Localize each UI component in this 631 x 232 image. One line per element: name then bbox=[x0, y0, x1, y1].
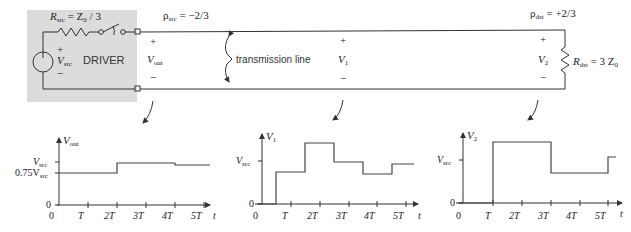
v1-minus: − bbox=[340, 72, 346, 84]
v1-waveform bbox=[257, 143, 414, 204]
vout-label: Vout bbox=[147, 53, 163, 67]
svg-text:0: 0 bbox=[456, 210, 461, 221]
svg-text:2T: 2T bbox=[307, 210, 319, 221]
plot-v2: V2 Vsrc 0 0 T 2T 3T 4T 5T t bbox=[437, 129, 623, 221]
plot-vout-t-label: t bbox=[213, 210, 216, 221]
vsrc-minus: − bbox=[57, 67, 63, 79]
svg-text:0: 0 bbox=[253, 210, 258, 221]
rho-src-label: ρsrc = −2/3 bbox=[163, 9, 209, 23]
rho-dst-label: ρdst = +2/3 bbox=[530, 7, 576, 21]
svg-text:3T: 3T bbox=[537, 210, 550, 221]
arrow-to-vout-plot bbox=[143, 101, 153, 123]
v2-minus: − bbox=[540, 71, 546, 83]
arrow-to-v2-plot bbox=[528, 100, 538, 120]
svg-text:T: T bbox=[485, 210, 492, 221]
svg-text:Vsrc: Vsrc bbox=[236, 155, 250, 168]
svg-text:5T: 5T bbox=[191, 210, 203, 221]
transmission-line-diagram: Rsrc = Z0 / 3 + Vsrc − DRIVER ρsrc = −2/… bbox=[0, 0, 631, 232]
arrow-to-v1-plot bbox=[333, 100, 343, 120]
svg-text:t: t bbox=[418, 210, 421, 221]
svg-text:V2: V2 bbox=[467, 129, 478, 143]
svg-text:0: 0 bbox=[49, 210, 54, 221]
vout-waveform bbox=[59, 163, 210, 173]
svg-text:Vout: Vout bbox=[63, 134, 79, 148]
svg-text:0: 0 bbox=[249, 198, 254, 209]
v1-plus: + bbox=[340, 34, 346, 46]
svg-text:2T: 2T bbox=[509, 210, 521, 221]
svg-text:V1: V1 bbox=[266, 130, 277, 144]
rdst-label: Rdst = 3 Z0 bbox=[572, 55, 619, 69]
svg-text:T: T bbox=[282, 210, 289, 221]
svg-text:5T: 5T bbox=[595, 210, 607, 221]
svg-text:3T: 3T bbox=[132, 210, 145, 221]
vout-minus: − bbox=[150, 71, 156, 83]
svg-text:Vsrc: Vsrc bbox=[437, 154, 451, 167]
v2-label: V2 bbox=[538, 53, 549, 67]
brace-icon bbox=[225, 36, 232, 82]
svg-text:0: 0 bbox=[450, 197, 455, 208]
v2-plus: + bbox=[540, 33, 546, 45]
svg-text:5T: 5T bbox=[393, 210, 405, 221]
driver-label: DRIVER bbox=[83, 54, 125, 66]
rdst-resistor bbox=[561, 30, 569, 89]
svg-text:4T: 4T bbox=[162, 210, 174, 221]
svg-text:2T: 2T bbox=[104, 210, 116, 221]
v1-label: V1 bbox=[338, 53, 349, 67]
v2-waveform bbox=[458, 142, 616, 203]
plot-v1: V1 Vsrc 0 0 T 2T 3T 4T 5T t bbox=[236, 130, 421, 221]
svg-text:0: 0 bbox=[46, 199, 51, 210]
svg-text:t: t bbox=[620, 208, 623, 219]
line-top-conductor bbox=[140, 30, 565, 32]
svg-text:T: T bbox=[78, 210, 85, 221]
vout-plus: + bbox=[150, 35, 156, 47]
plot-vout: Vout Vsrc 0.75Vsrc 0 0 T 2T 3T 4T 5T bbox=[15, 134, 210, 221]
svg-text:4T: 4T bbox=[364, 210, 376, 221]
svg-text:3T: 3T bbox=[335, 210, 348, 221]
svg-text:4T: 4T bbox=[566, 210, 578, 221]
transmission-line-label: transmission line bbox=[236, 54, 311, 65]
